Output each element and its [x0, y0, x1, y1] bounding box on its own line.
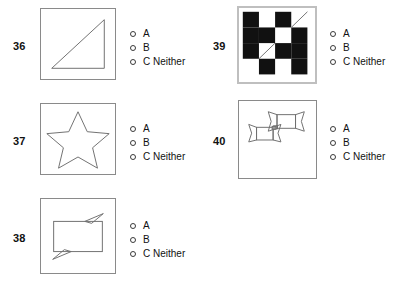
options-group-39: A B C Neither	[330, 27, 385, 69]
option-row-40-a[interactable]: A	[330, 122, 385, 136]
options-group-40: A B C Neither	[330, 122, 385, 164]
radio-icon-36-a[interactable]	[130, 31, 136, 37]
two-ribbon-banners-icon	[239, 101, 316, 178]
radio-icon-40-b[interactable]	[330, 140, 336, 146]
option-label-39-c: C Neither	[343, 57, 385, 67]
question-number-40: 40	[213, 136, 226, 147]
option-row-37-b[interactable]: B	[130, 136, 185, 150]
option-row-38-b[interactable]: B	[130, 233, 185, 247]
option-label-38-b: B	[143, 235, 150, 245]
option-row-37-a[interactable]: A	[130, 122, 185, 136]
option-label-40-a: A	[343, 124, 350, 134]
radio-icon-39-c[interactable]	[330, 59, 336, 65]
answer-sheet: 36 A B C Neither 37	[0, 0, 405, 291]
figure-box-39	[237, 6, 317, 84]
question-number-37: 37	[13, 136, 26, 147]
option-row-36-a[interactable]: A	[130, 27, 185, 41]
question-block-38: 38 A B C Neither	[0, 190, 205, 285]
radio-icon-38-b[interactable]	[130, 237, 136, 243]
figure-box-38	[40, 198, 116, 274]
options-group-38: A B C Neither	[130, 219, 185, 261]
question-block-37: 37 A B C Neither	[0, 95, 205, 185]
option-row-40-c[interactable]: C Neither	[330, 150, 385, 164]
radio-icon-40-a[interactable]	[330, 126, 336, 132]
figure-box-37	[40, 103, 116, 175]
radio-icon-36-b[interactable]	[130, 45, 136, 51]
option-label-38-a: A	[143, 221, 150, 231]
option-label-36-c: C Neither	[143, 57, 185, 67]
option-row-39-c[interactable]: C Neither	[330, 55, 385, 69]
radio-icon-39-b[interactable]	[330, 45, 336, 51]
option-row-38-c[interactable]: C Neither	[130, 247, 185, 261]
option-row-36-b[interactable]: B	[130, 41, 185, 55]
option-row-39-b[interactable]: B	[330, 41, 385, 55]
radio-icon-37-c[interactable]	[130, 154, 136, 160]
radio-icon-37-b[interactable]	[130, 140, 136, 146]
option-label-37-a: A	[143, 124, 150, 134]
options-group-36: A B C Neither	[130, 27, 185, 69]
option-row-40-b[interactable]: B	[330, 136, 385, 150]
radio-icon-40-c[interactable]	[330, 154, 336, 160]
figure-box-36	[40, 8, 116, 80]
option-label-38-c: C Neither	[143, 249, 185, 259]
option-label-36-b: B	[143, 43, 150, 53]
radio-icon-38-c[interactable]	[130, 251, 136, 257]
option-label-40-c: C Neither	[343, 152, 385, 162]
checkerboard-with-diagonals-icon	[239, 8, 315, 82]
question-number-38: 38	[13, 233, 26, 244]
right-triangle-icon	[41, 9, 115, 79]
option-label-36-a: A	[143, 29, 150, 39]
option-row-38-a[interactable]: A	[130, 219, 185, 233]
options-group-37: A B C Neither	[130, 122, 185, 164]
rectangle-with-tabs-icon	[41, 199, 115, 273]
option-row-37-c[interactable]: C Neither	[130, 150, 185, 164]
radio-icon-39-a[interactable]	[330, 31, 336, 37]
figure-box-40	[238, 100, 317, 179]
option-row-39-a[interactable]: A	[330, 27, 385, 41]
question-block-36: 36 A B C Neither	[0, 0, 205, 90]
option-label-39-b: B	[343, 43, 350, 53]
radio-icon-36-c[interactable]	[130, 59, 136, 65]
five-pointed-star-icon	[41, 104, 115, 174]
question-number-36: 36	[13, 41, 26, 52]
option-label-40-b: B	[343, 138, 350, 148]
option-label-37-c: C Neither	[143, 152, 185, 162]
question-block-40: 40	[205, 95, 405, 185]
radio-icon-38-a[interactable]	[130, 223, 136, 229]
option-label-37-b: B	[143, 138, 150, 148]
option-row-36-c[interactable]: C Neither	[130, 55, 185, 69]
question-block-39: 39	[205, 0, 405, 90]
option-label-39-a: A	[343, 29, 350, 39]
question-number-39: 39	[213, 41, 226, 52]
radio-icon-37-a[interactable]	[130, 126, 136, 132]
